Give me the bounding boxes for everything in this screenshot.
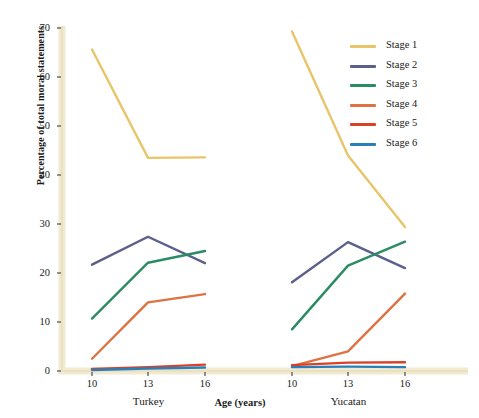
x-tick-label-turkey-13: 13 [136, 378, 160, 389]
x-tick-label-turkey-16: 16 [193, 378, 217, 389]
legend-label-stage-1: Stage 1 [386, 39, 417, 50]
legend-swatch-stage-2 [350, 65, 376, 68]
y-tick-label-10: 10 [24, 317, 50, 327]
panel-label-yucatan: Yucatan [309, 395, 389, 407]
series-line-stage-4-turkey [92, 294, 205, 359]
y-tick-label-20: 20 [24, 268, 50, 278]
legend-label-stage-3: Stage 3 [386, 78, 417, 89]
x-tick-label-yucatan-13: 13 [336, 378, 360, 389]
legend-label-stage-5: Stage 5 [386, 117, 417, 128]
series-line-stage-1-turkey [92, 50, 205, 158]
legend-swatch-stage-6 [350, 143, 376, 146]
x-tick-label-yucatan-10: 10 [280, 378, 304, 389]
y-tick-label-0: 0 [24, 366, 50, 376]
series-line-stage-4-yucatan [292, 294, 405, 367]
legend-label-stage-4: Stage 4 [386, 98, 417, 109]
y-tick-label-40: 40 [24, 170, 50, 180]
legend-swatch-stage-3 [350, 84, 376, 87]
legend-swatch-stage-5 [350, 123, 376, 126]
y-tick-label-60: 60 [24, 72, 50, 82]
x-tick-label-turkey-10: 10 [80, 378, 104, 389]
series-line-stage-2-turkey [92, 237, 205, 265]
legend-swatch-stage-1 [350, 45, 376, 48]
y-tick-label-50: 50 [24, 121, 50, 131]
x-axis-title: Age (years) [160, 397, 320, 408]
legend-label-stage-2: Stage 2 [386, 59, 417, 70]
y-tick-label-70: 70 [24, 23, 50, 33]
legend-label-stage-6: Stage 6 [386, 137, 417, 148]
series-line-stage-3-turkey [92, 251, 205, 319]
y-tick-label-30: 30 [24, 219, 50, 229]
line-chart: Percentage of total moral statements 010… [0, 0, 479, 418]
x-tick-label-yucatan-16: 16 [393, 378, 417, 389]
series-line-stage-3-yucatan [292, 242, 405, 330]
legend-swatch-stage-4 [350, 104, 376, 107]
